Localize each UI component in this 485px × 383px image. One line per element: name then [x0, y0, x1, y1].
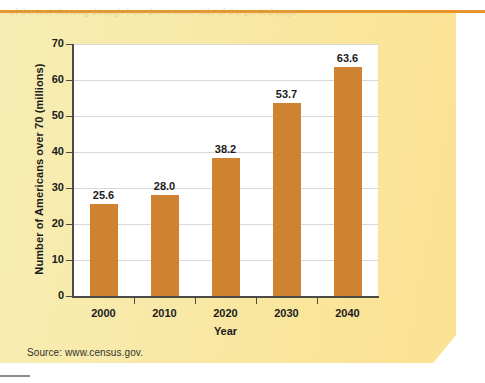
y-tick-label: 60 [34, 73, 64, 85]
bar-value-label: 53.7 [257, 88, 317, 100]
x-tick-label: 2000 [74, 307, 134, 319]
y-tick-label: 40 [34, 145, 64, 157]
y-tick [66, 260, 73, 261]
y-tick-label: 0 [34, 289, 64, 301]
x-tick [195, 298, 196, 304]
x-tick [256, 298, 257, 304]
bar [334, 67, 362, 296]
y-tick [66, 116, 73, 117]
bar-group [73, 44, 378, 296]
bar [273, 103, 301, 296]
x-axis-line [72, 296, 379, 298]
x-tick [134, 298, 135, 304]
bar-value-label: 63.6 [318, 52, 378, 64]
x-axis-title: Year [73, 325, 378, 337]
figure-root: of the text showing through from the rev… [0, 0, 485, 383]
y-tick-label: 50 [34, 109, 64, 121]
x-tick-label: 2020 [196, 307, 256, 319]
bar-value-label: 28.0 [135, 180, 195, 192]
y-tick-label: 10 [34, 253, 64, 265]
page-bottom-mark [0, 375, 30, 377]
x-tick-label: 2030 [257, 307, 317, 319]
y-tick-label: 70 [34, 37, 64, 49]
y-tick [66, 80, 73, 81]
bar [151, 195, 179, 296]
x-tick-label: 2010 [135, 307, 195, 319]
y-axis-title: Number of Americans over 70 (millions) [33, 54, 45, 284]
y-tick [66, 44, 73, 45]
y-tick [66, 152, 73, 153]
x-tick [317, 298, 318, 304]
bar [90, 204, 118, 296]
bar [212, 158, 240, 296]
y-tick [66, 188, 73, 189]
source-note: Source: www.census.gov. [27, 347, 143, 358]
bar-value-label: 25.6 [74, 189, 134, 201]
bar-chart: Number of Americans over 70 (millions) 0… [0, 13, 456, 363]
y-tick-label: 20 [34, 217, 64, 229]
bar-value-label: 38.2 [196, 143, 256, 155]
y-tick [66, 224, 73, 225]
y-tick-label: 30 [34, 181, 64, 193]
x-tick-label: 2040 [318, 307, 378, 319]
y-tick [66, 296, 73, 297]
